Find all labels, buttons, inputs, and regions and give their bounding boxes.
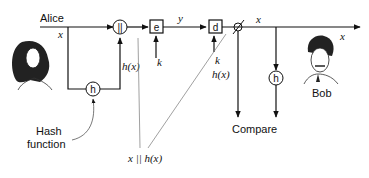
- h-x-label-alice: h(x): [122, 60, 140, 73]
- svg-text:e: e: [154, 22, 160, 33]
- k-label-encrypt: k: [157, 56, 163, 68]
- k-label-decrypt: k: [215, 54, 221, 66]
- hash-encrypt-diagram: Alice x h h(x) || e k y d k h(x) x: [0, 0, 369, 178]
- hash-function-pointer: [72, 99, 94, 140]
- compare-label: Compare: [232, 123, 277, 135]
- alice-label: Alice: [40, 12, 64, 24]
- bob-label: Bob: [312, 87, 332, 99]
- encrypt-box: e: [150, 20, 163, 33]
- alice-portrait: [12, 41, 52, 90]
- concat-annotation-line-left: [138, 38, 140, 148]
- h-x-label-bob: h(x): [212, 68, 230, 81]
- svg-text:||: ||: [117, 22, 122, 33]
- y-label: y: [177, 12, 183, 24]
- branch-to-hash: [68, 27, 86, 89]
- concat-annotation-label: x || h(x): [127, 152, 162, 165]
- svg-text:h: h: [273, 73, 279, 84]
- x-label-alice: x: [57, 28, 63, 40]
- hash-function-label-line1: Hash: [36, 125, 62, 137]
- concat-annotation-line-right: [148, 34, 226, 148]
- bob-portrait: [304, 36, 338, 84]
- hash-function-label-line2: function: [27, 138, 66, 150]
- hash-node-bob: h: [269, 71, 283, 85]
- hash-to-concat: [100, 38, 120, 89]
- svg-text:h: h: [90, 84, 96, 95]
- decrypt-box: d: [209, 20, 222, 33]
- x-label-bob-right: x: [339, 30, 345, 42]
- x-label-bob-top: x: [255, 13, 261, 25]
- svg-text:d: d: [213, 22, 219, 33]
- hash-node-alice: h: [86, 82, 100, 96]
- concat-node: ||: [113, 20, 127, 34]
